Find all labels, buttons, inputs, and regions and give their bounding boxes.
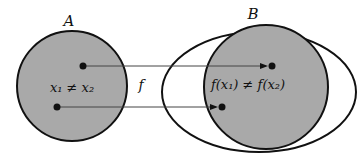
set-a-label: A <box>62 12 75 30</box>
injective-function-diagram: A B x₁ ≠ x₂ f(x₁) ≠ f(x₂) f <box>0 0 357 154</box>
point-x2 <box>54 104 61 111</box>
set-a-text: x₁ ≠ x₂ <box>50 80 94 95</box>
set-b-text: f(x₁) ≠ f(x₂) <box>210 77 285 92</box>
set-b-label: B <box>246 5 258 23</box>
point-fx1 <box>269 63 276 70</box>
point-fx2 <box>219 104 226 111</box>
point-x1 <box>80 63 87 70</box>
function-label: f <box>137 77 146 93</box>
